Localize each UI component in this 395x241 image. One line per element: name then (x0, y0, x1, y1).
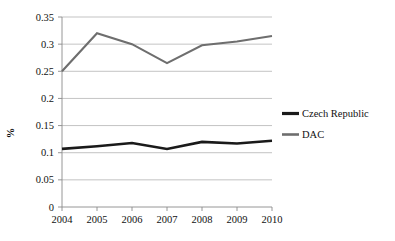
y-tick-label: 0.3 (41, 39, 54, 50)
x-tick-label: 2010 (262, 214, 283, 225)
y-tick-marks-group (58, 17, 62, 207)
data-series-group (62, 33, 272, 149)
x-tick-label: 2006 (122, 214, 143, 225)
x-tick-label: 2009 (227, 214, 248, 225)
series-line-czech-republic (62, 141, 272, 149)
y-tick-label: 0.05 (36, 174, 54, 185)
y-tick-label: 0.2 (41, 93, 54, 104)
y-tick-label: 0.25 (36, 66, 54, 77)
series-line-dac (62, 33, 272, 71)
chart-legend: Czech RepublicDAC (282, 108, 369, 140)
x-tick-label: 2004 (52, 214, 74, 225)
x-tick-label: 2007 (157, 214, 178, 225)
y-axis-title: % (5, 128, 16, 139)
y-axis-tick-labels: 00.050.10.150.20.250.30.35 (36, 12, 54, 213)
y-tick-label: 0.35 (36, 12, 54, 23)
x-tick-label: 2008 (192, 214, 213, 225)
x-tick-marks-group (62, 207, 272, 211)
y-tick-label: 0.1 (41, 147, 54, 158)
x-tick-label: 2005 (87, 214, 108, 225)
y-tick-label: 0.15 (36, 120, 54, 131)
line-chart: 00.050.10.150.20.250.30.35 2004200520062… (0, 0, 395, 241)
legend-label: DAC (302, 129, 324, 140)
x-axis-tick-labels: 2004200520062007200820092010 (52, 214, 283, 225)
y-tick-label: 0 (49, 202, 54, 213)
legend-label: Czech Republic (302, 108, 369, 119)
chart-plot-area: 00.050.10.150.20.250.30.35 2004200520062… (0, 0, 395, 241)
